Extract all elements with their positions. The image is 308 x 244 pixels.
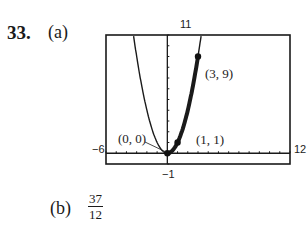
data-point [174,139,180,145]
answer-fraction: 37 12 [88,192,103,221]
point-label-3-9: (3, 9) [205,66,233,81]
data-point [195,53,201,59]
fraction-numerator: 37 [88,192,103,207]
part-b-label: (b) [50,198,71,219]
graph: (0, 0) (1, 1) (3, 9) [0,0,308,244]
origin-leader-line [145,142,166,152]
point-label-1-1: (1, 1) [196,132,224,147]
fraction-denominator: 12 [89,207,102,221]
highlighted-segment [167,57,198,154]
point-label-origin: (0, 0) [118,131,146,146]
data-point [164,150,170,156]
